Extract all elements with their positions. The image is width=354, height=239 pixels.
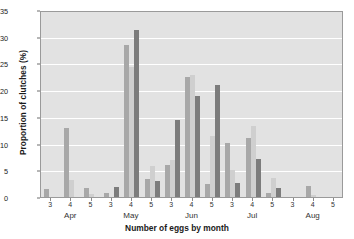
bar	[44, 189, 49, 197]
y-axis-tick-label: 20	[0, 87, 8, 96]
x-axis-title: Number of eggs by month	[0, 223, 354, 233]
bar-group	[41, 12, 61, 197]
x-axis-tick-mark	[293, 198, 294, 201]
x-axis-tick-label: 4	[62, 201, 78, 208]
y-axis-title: Proportion of clutches (%)	[19, 18, 28, 188]
bar	[155, 181, 160, 197]
x-axis-tick-mark	[313, 198, 314, 201]
x-axis-tick-mark	[252, 198, 253, 201]
y-axis-tick-label: 5	[0, 167, 8, 176]
bar-group	[61, 12, 81, 197]
x-axis-tick-label: 5	[204, 201, 220, 208]
x-axis-tick-mark	[50, 198, 51, 201]
bar	[134, 30, 139, 197]
bar	[215, 85, 220, 197]
x-axis-tick-label: 4	[244, 201, 260, 208]
x-axis-tick-label: 3	[103, 201, 119, 208]
month-label: Jul	[232, 211, 272, 220]
bar-group	[304, 12, 324, 197]
x-axis-tick-mark	[131, 198, 132, 201]
bar-group	[223, 12, 243, 197]
bar	[276, 188, 281, 197]
bar-group	[81, 12, 101, 197]
bar	[69, 180, 74, 197]
month-label: Jun	[172, 211, 212, 220]
y-axis-tick-label: 10	[0, 140, 8, 149]
bar	[195, 96, 200, 198]
x-axis-tick-label: 4	[123, 201, 139, 208]
x-axis-tick-mark	[111, 198, 112, 201]
bar	[311, 195, 316, 197]
x-axis-tick-mark	[212, 198, 213, 201]
y-axis-tick-label: 15	[0, 113, 8, 122]
x-axis-tick-label: 5	[143, 201, 159, 208]
x-axis-tick-mark	[91, 198, 92, 201]
x-axis-tick-mark	[70, 198, 71, 201]
month-label: Aug	[293, 211, 333, 220]
x-axis-tick-label: 5	[325, 201, 341, 208]
x-axis-tick-label: 5	[83, 201, 99, 208]
y-axis-tick-label: 0	[0, 194, 8, 203]
bar-group	[283, 12, 303, 197]
bar	[175, 120, 180, 197]
bar-group	[162, 12, 182, 197]
bar-group	[122, 12, 142, 197]
bar	[89, 194, 94, 197]
y-axis-tick-label: 25	[0, 60, 8, 69]
x-axis-tick-label: 3	[224, 201, 240, 208]
bar-group	[102, 12, 122, 197]
x-axis-tick-label: 3	[42, 201, 58, 208]
bar	[235, 183, 240, 197]
plot-area	[40, 11, 343, 198]
x-axis-tick-label: 3	[285, 201, 301, 208]
bar	[104, 193, 109, 197]
x-axis-tick-mark	[192, 198, 193, 201]
bar-group	[203, 12, 223, 197]
x-axis-tick-label: 4	[305, 201, 321, 208]
bar	[256, 159, 261, 197]
y-axis-tick-label: 35	[0, 7, 8, 16]
month-label: Apr	[50, 211, 90, 220]
x-axis-tick-mark	[333, 198, 334, 201]
bar-group	[182, 12, 202, 197]
month-label: May	[111, 211, 151, 220]
plot-inner	[41, 12, 342, 197]
y-axis-tick-label: 30	[0, 33, 8, 42]
x-axis-tick-label: 4	[184, 201, 200, 208]
bar-group	[142, 12, 162, 197]
x-axis-tick-mark	[171, 198, 172, 201]
bar-group	[263, 12, 283, 197]
x-axis-tick-label: 5	[264, 201, 280, 208]
x-axis-tick-label: 3	[163, 201, 179, 208]
bar-group	[243, 12, 263, 197]
bar-group	[324, 12, 342, 197]
x-axis-tick-mark	[151, 198, 152, 201]
x-axis-tick-mark	[272, 198, 273, 201]
chart-container: Proportion of clutches (%) 0510152025303…	[0, 0, 354, 239]
bar	[114, 187, 119, 197]
x-axis-tick-mark	[232, 198, 233, 201]
